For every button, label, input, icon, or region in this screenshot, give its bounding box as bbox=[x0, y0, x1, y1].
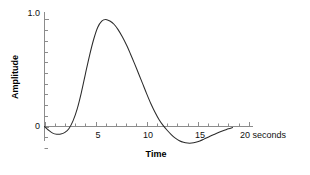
y-tick-label-1.0: 1.0 bbox=[22, 9, 40, 18]
y-tick-label-0: 0 bbox=[22, 122, 40, 131]
chart-axes bbox=[44, 12, 253, 149]
amplitude-time-chart: Amplitude Time 1.0 0 5 10 15 20 seconds bbox=[0, 0, 310, 175]
x-tick-label-5: 5 bbox=[88, 131, 108, 140]
y-axis-title: Amplitude bbox=[8, 46, 22, 108]
x-tick-label-10: 10 bbox=[138, 131, 158, 140]
x-tick-label-20-seconds: 20 seconds bbox=[240, 131, 306, 140]
x-axis-ticks bbox=[46, 122, 250, 127]
x-axis-title: Time bbox=[133, 150, 179, 159]
y-axis-title-text: Amplitude bbox=[11, 55, 20, 99]
x-tick-label-15: 15 bbox=[190, 131, 210, 140]
amplitude-curve bbox=[45, 19, 233, 143]
